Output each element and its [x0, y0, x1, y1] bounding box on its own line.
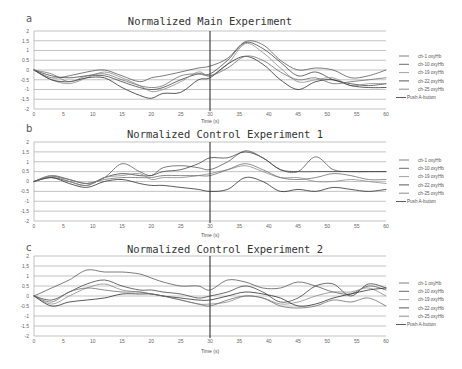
- x-tick-labels: 051015202530354045505560: [33, 111, 389, 117]
- x-tick-label: 5: [62, 338, 65, 344]
- x-tick-label: 60: [383, 338, 389, 344]
- x-tick-label: 20: [149, 338, 155, 344]
- y-tick-label: -0.5: [20, 77, 29, 83]
- legend-label: Push A-button: [407, 95, 436, 100]
- x-tick-labels: 051015202530354045505560: [33, 223, 389, 229]
- legend: ch-1 oxyHbch-10 oxyHbch-19 oxyHbch-22 ox…: [396, 54, 444, 101]
- legend-item: ch-10 oxyHb: [399, 62, 444, 67]
- x-tick-label: 0: [33, 338, 36, 344]
- x-tick-label: 10: [90, 111, 96, 117]
- y-tick-label: 0: [26, 293, 29, 299]
- y-tick-label: -0.5: [20, 303, 29, 309]
- legend-item: ch-22 oxyHb: [399, 183, 444, 188]
- x-tick-label: 25: [178, 223, 184, 229]
- y-tick-label: -2: [25, 333, 30, 339]
- x-tick-label: 30: [207, 338, 213, 344]
- legend-item: ch-25 oxyHb: [399, 191, 444, 196]
- y-tick-labels: 21.510.50-0.5-1-1.5-2: [20, 253, 29, 339]
- x-tick-label: 20: [149, 223, 155, 229]
- legend-label: ch-19 oxyHb: [418, 70, 444, 75]
- x-tick-label: 55: [354, 338, 360, 344]
- figure: a Normalized Main Experiment 21.510.50-0…: [0, 0, 462, 369]
- legend-item: ch-19 oxyHb: [399, 174, 444, 179]
- x-tick-label: 15: [119, 223, 125, 229]
- x-tick-label: 50: [325, 223, 331, 229]
- x-tick-label: 35: [237, 223, 243, 229]
- y-tick-label: -1: [25, 86, 30, 92]
- x-axis-label: Time (s): [201, 118, 219, 124]
- panel-b: b Normalized Control Experiment 1 21.510…: [20, 123, 444, 238]
- x-axis-label: Time (s): [201, 348, 219, 354]
- y-tick-label: 2: [26, 28, 29, 34]
- legend-label: ch-10 oxyHb: [418, 289, 444, 294]
- legend: ch-1 oxyHbch-10 oxyHbch-19 oxyHbch-22 ox…: [396, 158, 444, 205]
- x-tick-labels: 051015202530354045505560: [33, 338, 389, 344]
- y-tick-label: -1: [25, 198, 30, 204]
- legend-label: Push A-button: [407, 199, 436, 204]
- legend-label: ch-22 oxyHb: [418, 183, 444, 188]
- x-tick-label: 5: [62, 223, 65, 229]
- legend-item: ch-22 oxyHb: [399, 306, 444, 311]
- x-tick-label: 15: [119, 338, 125, 344]
- legend-item: ch-10 oxyHb: [399, 289, 444, 294]
- y-tick-label: -1: [25, 313, 30, 319]
- y-tick-label: 1: [26, 159, 29, 165]
- legend-item: ch-25 oxyHb: [399, 87, 444, 92]
- y-tick-label: 1.5: [22, 149, 29, 155]
- x-tick-label: 35: [237, 111, 243, 117]
- x-tick-label: 45: [295, 338, 301, 344]
- x-axis-label: Time (s): [201, 232, 219, 238]
- legend-label: Push A-button: [407, 322, 436, 327]
- legend-label: ch-1 oxyHb: [418, 54, 442, 59]
- legend: ch-1 oxyHbch-10 oxyHbch-19 oxyHbch-22 ox…: [396, 281, 444, 328]
- y-tick-label: -0.5: [20, 188, 29, 194]
- y-tick-label: 0: [26, 67, 29, 73]
- x-tick-label: 60: [383, 111, 389, 117]
- legend-item: ch-25 oxyHb: [399, 314, 444, 319]
- y-tick-label: 0.5: [22, 283, 29, 289]
- legend-item: ch-19 oxyHb: [399, 70, 444, 75]
- y-tick-label: 1: [26, 47, 29, 53]
- y-tick-label: 2: [26, 139, 29, 145]
- y-tick-label: -1.5: [20, 96, 29, 102]
- legend-label: ch-1 oxyHb: [418, 158, 442, 163]
- x-tick-label: 5: [62, 111, 65, 117]
- x-tick-label: 30: [207, 223, 213, 229]
- x-tick-label: 60: [383, 223, 389, 229]
- y-tick-label: -1.5: [20, 208, 29, 214]
- legend-item: ch-19 oxyHb: [399, 297, 444, 302]
- y-tick-label: 1.5: [22, 38, 29, 44]
- y-tick-label: 2: [26, 253, 29, 259]
- x-tick-label: 25: [178, 338, 184, 344]
- x-tick-label: 55: [354, 111, 360, 117]
- x-tick-label: 10: [90, 223, 96, 229]
- x-tick-label: 40: [266, 223, 272, 229]
- panel-title-a: Normalized Main Experiment: [128, 15, 292, 27]
- y-tick-label: 0: [26, 178, 29, 184]
- y-tick-label: 1: [26, 273, 29, 279]
- legend-label: ch-19 oxyHb: [418, 174, 444, 179]
- legend-label: ch-22 oxyHb: [418, 306, 444, 311]
- panel-letter-a: a: [26, 13, 32, 24]
- legend-label: ch-19 oxyHb: [418, 297, 444, 302]
- x-tick-label: 15: [119, 111, 125, 117]
- x-tick-label: 45: [295, 223, 301, 229]
- legend-label: ch-25 oxyHb: [418, 191, 444, 196]
- legend-item-push-a-button: Push A-button: [396, 199, 436, 204]
- legend-item: ch-1 oxyHb: [399, 281, 442, 286]
- legend-item: ch-22 oxyHb: [399, 79, 444, 84]
- legend-label: ch-25 oxyHb: [418, 87, 444, 92]
- x-tick-label: 55: [354, 223, 360, 229]
- panel-letter-b: b: [26, 123, 32, 134]
- x-tick-label: 20: [149, 111, 155, 117]
- legend-label: ch-22 oxyHb: [418, 79, 444, 84]
- y-tick-label: -2: [25, 106, 30, 112]
- x-tick-label: 45: [295, 111, 301, 117]
- y-tick-label: -2: [25, 218, 30, 224]
- y-tick-label: 0.5: [22, 57, 29, 63]
- panel-title-b: Normalized Control Experiment 1: [127, 128, 323, 140]
- x-tick-label: 10: [90, 338, 96, 344]
- y-tick-label: 0.5: [22, 168, 29, 174]
- y-tick-label: -1.5: [20, 323, 29, 329]
- y-tick-label: 1.5: [22, 263, 29, 269]
